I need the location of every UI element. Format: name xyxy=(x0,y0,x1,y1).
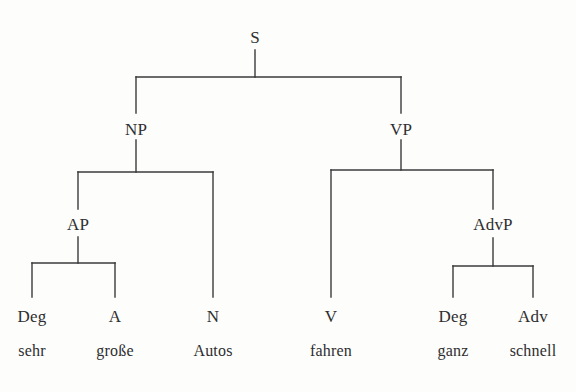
syntax-tree-diagram: S NP VP AP AdvP Deg A N V Deg Adv sehr g… xyxy=(0,0,576,392)
leaf-category-adv: Adv xyxy=(518,307,548,327)
leaf-category-a: A xyxy=(109,307,121,327)
leaf-word-grosse: große xyxy=(96,342,133,360)
leaf-word-schnell: schnell xyxy=(510,342,557,360)
leaf-word-sehr: sehr xyxy=(18,342,45,360)
node-label-advp: AdvP xyxy=(473,215,513,235)
leaf-category-deg-2: Deg xyxy=(439,307,468,327)
leaf-category-n: N xyxy=(207,307,219,327)
tree-edges-svg xyxy=(0,0,576,392)
node-label-ap: AP xyxy=(67,215,89,235)
leaf-category-v: V xyxy=(325,307,337,327)
node-label-vp: VP xyxy=(390,120,412,140)
node-label-s: S xyxy=(250,28,260,48)
leaf-word-fahren: fahren xyxy=(310,342,352,360)
leaf-word-ganz: ganz xyxy=(437,342,468,360)
leaf-word-autos: Autos xyxy=(193,342,232,360)
node-label-np: NP xyxy=(125,120,147,140)
leaf-category-deg-1: Deg xyxy=(18,307,47,327)
